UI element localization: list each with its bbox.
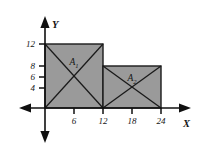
y-tick-label-8: 8 (31, 61, 36, 71)
y-tick-label-6: 6 (31, 72, 36, 82)
x-axis-ticks (74, 108, 161, 114)
x-axis-label: X (182, 118, 191, 129)
x-axis-right-arrow-icon (179, 103, 191, 112)
coordinate-figure: 12 8 6 4 6 12 18 24 Y X A1 A2 (0, 0, 203, 146)
y-axis-down-arrow-icon (40, 131, 49, 143)
x-tick-label-18: 18 (128, 116, 138, 126)
y-axis-up-arrow-icon (40, 16, 49, 28)
x-axis-left-arrow-icon (19, 103, 31, 112)
y-axis-label: Y (52, 19, 60, 30)
region-a1-subscript: 1 (75, 62, 78, 69)
x-tick-label-12: 12 (99, 116, 109, 126)
x-axis-tick-labels: 6 12 18 24 (72, 116, 166, 126)
x-tick-label-6: 6 (72, 116, 77, 126)
shaded-regions (45, 44, 161, 108)
y-tick-label-4: 4 (31, 83, 36, 93)
y-axis-ticks (39, 44, 45, 88)
y-axis-tick-labels: 12 8 6 4 (26, 39, 36, 93)
y-tick-label-12: 12 (26, 39, 36, 49)
figure-container: 12 8 6 4 6 12 18 24 Y X A1 A2 (0, 0, 203, 146)
x-tick-label-24: 24 (157, 116, 167, 126)
